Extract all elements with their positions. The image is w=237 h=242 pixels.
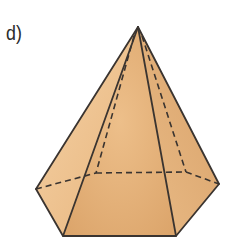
hexagonal-pyramid-figure [0, 0, 237, 242]
